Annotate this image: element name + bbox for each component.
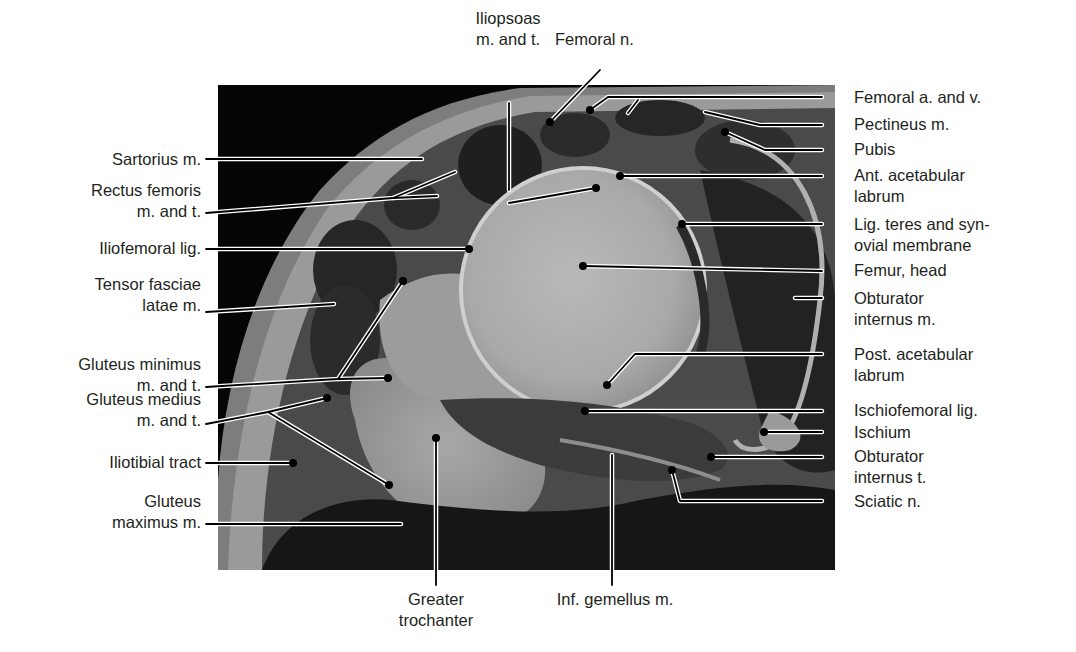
label-line: Pubis <box>854 139 895 160</box>
label-line: Sartorius m. <box>112 149 201 170</box>
label-line: maximus m. <box>112 512 201 533</box>
label-greater-trochanter: Greater trochanter <box>376 589 496 631</box>
label-line: Femur, head <box>854 260 947 281</box>
label-sciatic-n: Sciatic n. <box>854 491 921 512</box>
label-line: Ant. acetabular <box>854 165 965 186</box>
label-obturator-internus-m: Obturator internus m. <box>854 288 936 330</box>
label-line: labrum <box>854 186 965 207</box>
label-line: Ischium <box>854 422 911 443</box>
label-line: Lig. teres and syn- <box>854 214 990 235</box>
label-line: internus m. <box>854 309 936 330</box>
label-line: trochanter <box>376 610 496 631</box>
label-line: Sciatic n. <box>854 491 921 512</box>
label-line: m. and t. <box>448 29 568 50</box>
label-line: Iliofemoral lig. <box>99 238 201 259</box>
label-post-acetabular-labrum: Post. acetabular labrum <box>854 344 973 386</box>
label-obturator-internus-t: Obturator internus t. <box>854 446 926 488</box>
label-rectus-femoris: Rectus femoris m. and t. <box>91 180 201 222</box>
label-pubis: Pubis <box>854 139 895 160</box>
label-femoral-n: Femoral n. <box>555 29 634 50</box>
label-line: internus t. <box>854 467 926 488</box>
label-line: Ischiofemoral lig. <box>854 400 978 421</box>
label-line: Greater <box>376 589 496 610</box>
label-tensor-fasciae-latae: Tensor fasciae latae m. <box>95 274 201 316</box>
label-gluteus-maximus: Gluteus maximus m. <box>112 491 201 533</box>
label-line: m. and t. <box>91 201 201 222</box>
label-line: Femoral a. and v. <box>854 87 981 108</box>
label-gluteus-medius: Gluteus medius m. and t. <box>86 389 201 431</box>
label-ischium: Ischium <box>854 422 911 443</box>
label-line: Femoral n. <box>555 29 634 50</box>
label-lig-teres: Lig. teres and syn- ovial membrane <box>854 214 990 256</box>
label-line: labrum <box>854 365 973 386</box>
label-line: Gluteus medius <box>86 389 201 410</box>
label-line: Rectus femoris <box>91 180 201 201</box>
label-iliotibial-tract: Iliotibial tract <box>109 452 201 473</box>
label-line: Post. acetabular <box>854 344 973 365</box>
label-iliofemoral-lig: Iliofemoral lig. <box>99 238 201 259</box>
label-femoral-a-v: Femoral a. and v. <box>854 87 981 108</box>
label-line: Iliotibial tract <box>109 452 201 473</box>
label-ischiofemoral-lig: Ischiofemoral lig. <box>854 400 978 421</box>
label-line: Obturator <box>854 446 926 467</box>
label-line: Inf. gemellus m. <box>530 589 700 610</box>
label-line: Iliopsoas <box>448 8 568 29</box>
label-line: latae m. <box>95 295 201 316</box>
label-sartorius: Sartorius m. <box>112 149 201 170</box>
label-line: Tensor fasciae <box>95 274 201 295</box>
label-iliopsoas: Iliopsoas m. and t. <box>448 8 568 50</box>
label-inf-gemellus: Inf. gemellus m. <box>530 589 700 610</box>
label-line: Gluteus minimus <box>78 354 201 375</box>
label-line: ovial membrane <box>854 235 990 256</box>
label-line: m. and t. <box>86 410 201 431</box>
label-femur-head: Femur, head <box>854 260 947 281</box>
label-pectineus: Pectineus m. <box>854 114 949 135</box>
label-line: Gluteus <box>112 491 201 512</box>
label-ant-acetabular-labrum: Ant. acetabular labrum <box>854 165 965 207</box>
label-line: Obturator <box>854 288 936 309</box>
label-line: Pectineus m. <box>854 114 949 135</box>
